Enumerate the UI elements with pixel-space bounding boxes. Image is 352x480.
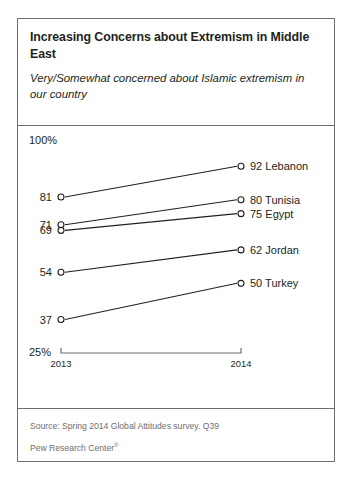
chart-subtitle: Very/Somewhat concerned about Islamic ex… bbox=[30, 71, 322, 102]
end-value-label: 92 Lebanon bbox=[250, 160, 308, 172]
chart-plot-area: 100% 25% 8192 Lebanon7180 Tunisia6975 Eg… bbox=[18, 126, 334, 409]
data-point-start bbox=[58, 194, 64, 200]
data-point-end bbox=[238, 280, 244, 286]
data-point-end bbox=[238, 247, 244, 253]
x-axis-line bbox=[61, 348, 241, 353]
data-point-start bbox=[58, 317, 64, 323]
attribution-text: Pew Research Center bbox=[30, 443, 114, 453]
series-line bbox=[65, 283, 237, 319]
registered-mark: ® bbox=[114, 442, 118, 448]
chart-footer: Source: Spring 2014 Global Attitudes sur… bbox=[18, 409, 334, 454]
start-value-label: 37 bbox=[40, 314, 52, 326]
x-axis-group: 20132014 bbox=[51, 348, 252, 369]
x-tick-label-start: 2013 bbox=[51, 358, 72, 369]
series-line bbox=[65, 250, 237, 272]
end-value-label: 80 Tunisia bbox=[250, 194, 301, 206]
series-line bbox=[65, 214, 237, 231]
end-value-label: 62 Jordan bbox=[250, 244, 299, 256]
start-value-label: 81 bbox=[40, 191, 52, 203]
data-point-start bbox=[58, 227, 64, 233]
chart-header: Increasing Concerns about Extremism in M… bbox=[18, 19, 334, 126]
data-point-start bbox=[58, 269, 64, 275]
slope-chart-svg: 8192 Lebanon7180 Tunisia6975 Egypt5462 J… bbox=[18, 126, 334, 408]
chart-figure: Increasing Concerns about Extremism in M… bbox=[17, 18, 335, 462]
start-value-label: 69 bbox=[40, 224, 52, 236]
chart-title: Increasing Concerns about Extremism in M… bbox=[30, 29, 322, 62]
series-line bbox=[65, 200, 237, 225]
data-point-end bbox=[238, 211, 244, 217]
end-value-label: 50 Turkey bbox=[250, 277, 299, 289]
source-note: Source: Spring 2014 Global Attitudes sur… bbox=[30, 421, 322, 432]
start-value-label: 54 bbox=[40, 266, 52, 278]
series-line bbox=[65, 166, 237, 197]
data-point-end bbox=[238, 197, 244, 203]
end-value-label: 75 Egypt bbox=[250, 208, 293, 220]
x-tick-label-end: 2014 bbox=[231, 358, 252, 369]
data-point-end bbox=[238, 163, 244, 169]
series-turkey: 3750 Turkey bbox=[40, 277, 299, 325]
series-jordan: 5462 Jordan bbox=[40, 244, 299, 278]
attribution-note: Pew Research Center® bbox=[30, 442, 322, 454]
series-group: 8192 Lebanon7180 Tunisia6975 Egypt5462 J… bbox=[40, 160, 308, 325]
series-egypt: 6975 Egypt bbox=[40, 208, 294, 237]
